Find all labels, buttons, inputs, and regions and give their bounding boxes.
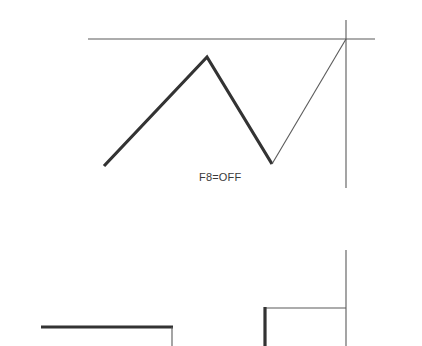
canvas-background: [0, 0, 422, 346]
cad-drawing-svg[interactable]: [0, 0, 422, 346]
drawing-canvas[interactable]: F8=OFF: [0, 0, 422, 346]
